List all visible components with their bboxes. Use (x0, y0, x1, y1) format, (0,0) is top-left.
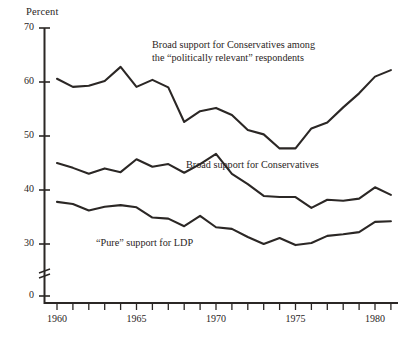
x-axis-tick-label: 1965 (117, 313, 157, 324)
y-axis-tick-label: 40 (12, 183, 34, 194)
y-axis-tick-label: 60 (12, 75, 34, 86)
y-axis-title: Percent (26, 6, 59, 17)
chart-container: Percent 70605040300 19601965197019751980… (0, 0, 410, 337)
y-axis-tick-label: 70 (12, 21, 34, 32)
y-axis-tick-label: 50 (12, 129, 34, 140)
x-axis-ticks (57, 303, 391, 310)
y-axis-tick-label: 0 (12, 289, 34, 300)
chart-series-lines (57, 67, 391, 245)
y-axis-tick-label: 30 (12, 237, 34, 248)
x-axis-tick-label: 1960 (37, 313, 77, 324)
series-annotation-pure-ldp: “Pure” support for LDP (96, 236, 193, 249)
series-line-0 (57, 67, 391, 149)
series-annotation-broad-conservatives: Broad support for Conservatives (186, 158, 319, 171)
x-axis-tick-label: 1970 (196, 313, 236, 324)
x-axis-tick-label: 1975 (276, 313, 316, 324)
x-axis-tick-label: 1980 (355, 313, 395, 324)
series-annotation-broad-politically-relevant: Broad support for Conservatives among th… (152, 38, 315, 65)
